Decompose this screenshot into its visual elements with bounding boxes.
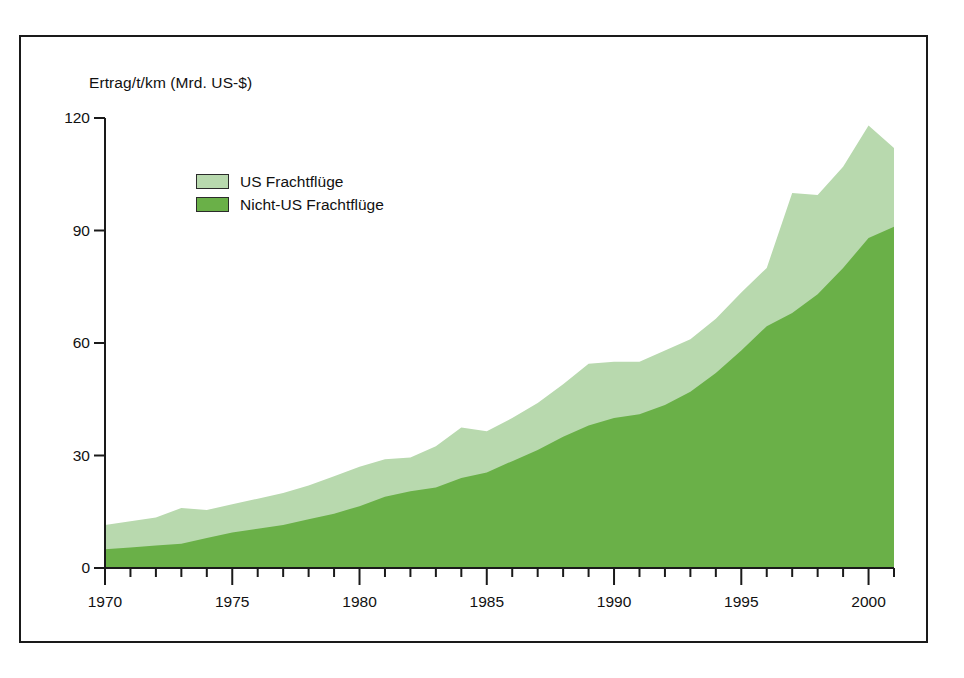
x-tick-label: 1980: [330, 593, 390, 611]
x-tick-label: 2000: [839, 593, 899, 611]
plot-area: [0, 0, 964, 678]
y-tick-label: 30: [46, 447, 90, 465]
x-tick-label: 1995: [711, 593, 771, 611]
chart-figure: Ertrag/t/km (Mrd. US-$) US Frachtflüge N…: [0, 0, 964, 678]
x-tick-label: 1990: [584, 593, 644, 611]
y-tick-label: 120: [46, 109, 90, 127]
x-axis-ticks: [105, 568, 894, 585]
area-series-group: [105, 126, 894, 569]
x-tick-label: 1970: [75, 593, 135, 611]
y-tick-label: 90: [46, 222, 90, 240]
y-tick-label: 60: [46, 334, 90, 352]
y-axis-ticks: [94, 118, 105, 568]
y-tick-label: 0: [46, 559, 90, 577]
x-tick-label: 1985: [457, 593, 517, 611]
x-tick-label: 1975: [202, 593, 262, 611]
